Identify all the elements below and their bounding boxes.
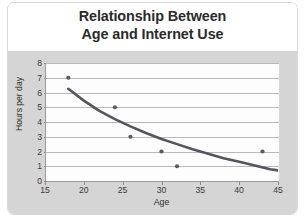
y-tick-label: 7 (26, 74, 42, 83)
x-tick-label: 15 (34, 185, 56, 195)
x-tick-label: 45 (267, 185, 289, 195)
data-point-markers (66, 76, 264, 169)
x-tick-label: 35 (189, 185, 211, 195)
x-tick-label: 40 (228, 185, 250, 195)
y-tick-labels: 8 7 6 5 4 3 2 1 0 (22, 63, 42, 182)
y-tick-label: 3 (26, 133, 42, 142)
data-point (260, 149, 264, 153)
y-tick-label: 8 (26, 59, 42, 68)
y-tick-label: 5 (26, 103, 42, 112)
chart-title-line-2: Age and Internet Use (8, 26, 297, 44)
plot-band: Hours per day 8 7 6 5 4 3 2 1 0 (8, 51, 298, 215)
y-tick-label: 2 (26, 148, 42, 157)
x-tick-label: 20 (73, 185, 95, 195)
chart-card: Relationship Between Age and Internet Us… (7, 2, 298, 215)
chart-data-layer (45, 63, 278, 182)
chart-title-line-1: Relationship Between (79, 8, 227, 24)
trendline (68, 89, 278, 171)
chart-title: Relationship Between Age and Internet Us… (8, 8, 297, 43)
y-tick-label: 1 (26, 162, 42, 171)
y-tick-label: 6 (26, 89, 42, 98)
data-point (159, 149, 163, 153)
x-axis-title: Age (45, 197, 278, 207)
data-point (113, 105, 117, 109)
x-tick-label: 25 (112, 185, 134, 195)
x-tick-label: 30 (151, 185, 173, 195)
data-point (175, 164, 179, 168)
data-point (128, 135, 132, 139)
y-tick-label: 4 (26, 118, 42, 127)
chart-title-band: Relationship Between Age and Internet Us… (8, 3, 297, 51)
data-point (66, 76, 70, 80)
